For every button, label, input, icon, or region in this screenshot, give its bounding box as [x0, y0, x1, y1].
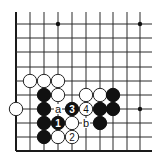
black-stone: [37, 130, 50, 143]
black-stone-icon: [106, 102, 119, 115]
point-marker-a: a: [54, 103, 62, 115]
star-point-icon: [138, 22, 142, 26]
white-stone-icon: [51, 130, 64, 143]
marker-letter: b: [83, 117, 89, 129]
marker-letter: a: [55, 103, 62, 115]
white-stone-icon: [23, 74, 36, 87]
white-stone-move-4: 4: [79, 102, 92, 115]
black-stone-icon: [93, 102, 106, 115]
white-stone: [51, 74, 64, 87]
black-stone: [37, 88, 50, 101]
black-stone-icon: [37, 88, 50, 101]
white-stone-icon: [93, 88, 106, 101]
white-stone: [9, 102, 22, 115]
white-stone: [51, 130, 64, 143]
black-stone: [93, 116, 106, 129]
white-stone-icon: [79, 88, 92, 101]
black-stone: [37, 116, 50, 129]
white-stone-move-2: 2: [65, 130, 78, 143]
go-board-diagram: 3412 ab: [0, 0, 164, 165]
black-stone-icon: [93, 116, 106, 129]
white-stone: [51, 88, 64, 101]
white-stone: [79, 88, 92, 101]
black-stone: [93, 102, 106, 115]
move-number: 1: [55, 118, 61, 129]
black-stone: [106, 102, 119, 115]
white-stone-icon: [9, 102, 22, 115]
white-stone-icon: [51, 74, 64, 87]
star-point-icon: [138, 107, 142, 111]
star-point-icon: [56, 22, 60, 26]
move-number: 2: [69, 132, 75, 143]
black-stone-icon: [37, 102, 50, 115]
white-stone: [93, 88, 106, 101]
move-number: 3: [69, 104, 75, 115]
white-stone: [65, 116, 78, 129]
move-number: 4: [83, 104, 89, 115]
black-stone-move-3: 3: [65, 102, 78, 115]
black-stone: [106, 88, 119, 101]
black-stone-icon: [37, 116, 50, 129]
black-stone-icon: [37, 130, 50, 143]
white-stone-icon: [51, 88, 64, 101]
white-stone-icon: [65, 116, 78, 129]
white-stone-icon: [37, 74, 50, 87]
white-stone: [23, 74, 36, 87]
point-marker-b: b: [82, 117, 90, 129]
black-stone-icon: [106, 88, 119, 101]
black-stone: [37, 102, 50, 115]
white-stone: [37, 74, 50, 87]
black-stone-move-1: 1: [51, 116, 64, 129]
